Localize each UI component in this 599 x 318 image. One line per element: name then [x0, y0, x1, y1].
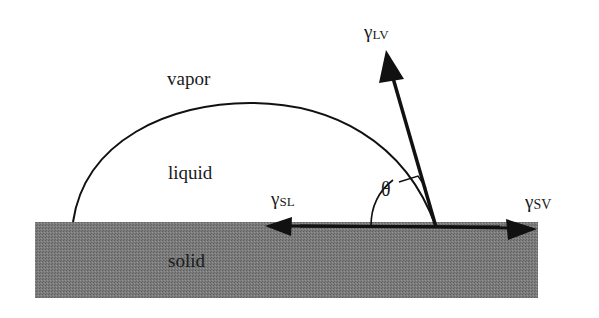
- label-gamma-lv: γLV: [363, 21, 389, 42]
- label-gamma-sv: γSV: [524, 191, 551, 212]
- label-solid: solid: [168, 250, 205, 271]
- droplet-interface: [73, 103, 436, 227]
- contact-angle-diagram: vapor liquid solid γLV γSL γSV θ: [0, 0, 599, 318]
- label-vapor: vapor: [167, 68, 211, 89]
- label-liquid: liquid: [168, 162, 213, 183]
- label-theta: θ: [381, 178, 391, 200]
- gamma-lv-arrow: [379, 50, 436, 227]
- label-gamma-sl: γSL: [270, 188, 295, 209]
